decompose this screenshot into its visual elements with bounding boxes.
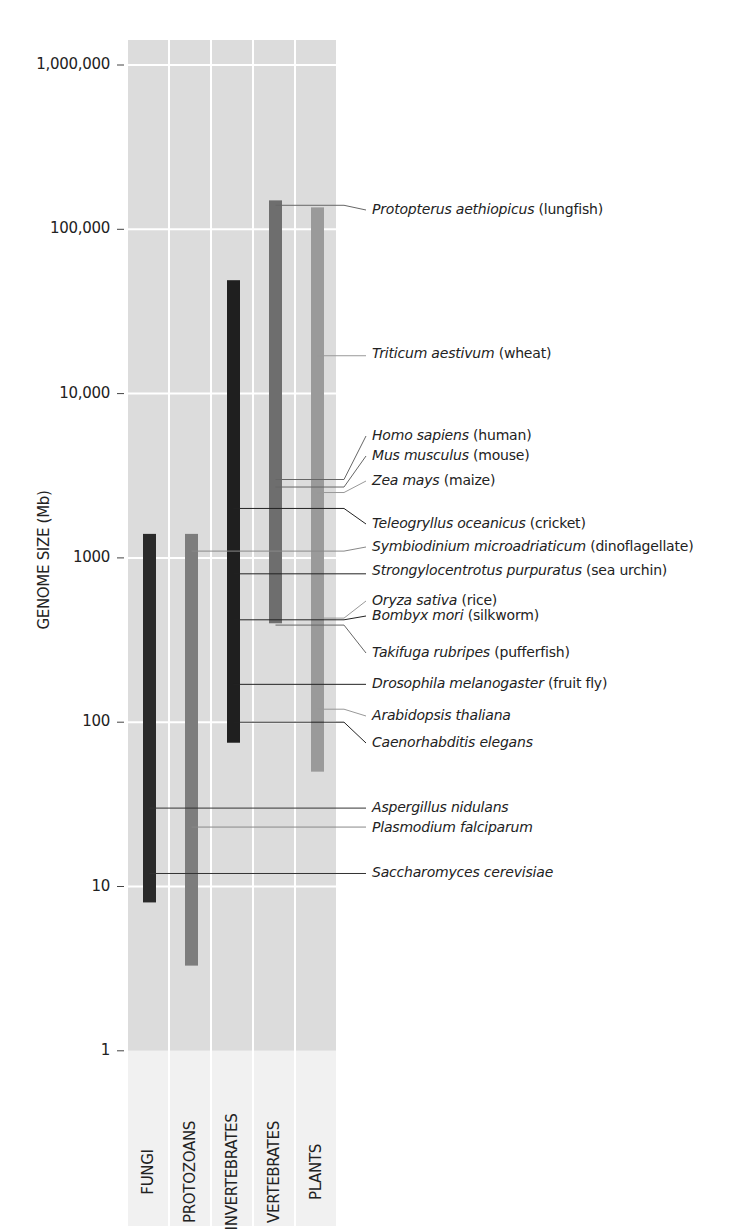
range-bar-vertebrates [269,200,282,623]
species-label: Arabidopsis thaliana [372,707,511,723]
species-label: Saccharomyces cerevisiae [372,864,553,880]
range-bar-fungi [143,534,156,903]
category-label: INVERTEBRATES [223,1114,241,1231]
genome-size-chart: GENOME SIZE (Mb) 110100100010,000100,000… [0,0,736,1232]
common-name: (mouse) [469,447,530,463]
species-name: Symbiodinium microadriaticum [372,538,586,554]
common-name: (dinoflagellate) [586,538,694,554]
species-name: Arabidopsis thaliana [372,707,511,723]
species-name: Zea mays [372,472,439,488]
species-name: Oryza sativa [372,592,457,608]
species-name: Bombyx mori [372,607,463,623]
y-tick-label: 1 [20,1041,110,1059]
species-name: Protopterus aethiopicus [372,201,534,217]
species-name: Caenorhabditis elegans [372,734,533,750]
common-name: (pufferfish) [490,644,570,660]
common-name: (cricket) [526,515,586,531]
species-label: Oryza sativa (rice) [372,592,497,608]
category-label: VERTEBRATES [265,1121,283,1223]
species-name: Mus musculus [372,447,469,463]
species-label: Mus musculus (mouse) [372,447,530,463]
common-name: (lungfish) [534,201,603,217]
y-tick-label: 1,000,000 [20,55,110,73]
species-name: Triticum aestivum [372,345,494,361]
y-tick-label: 100,000 [20,219,110,237]
species-name: Drosophila melanogaster [372,675,544,691]
species-label: Takifuga rubripes (pufferfish) [372,644,570,660]
category-label: FUNGI [139,1149,157,1194]
label-band-background [128,1051,168,1226]
species-label: Strongylocentrotus purpuratus (sea urchi… [372,562,667,578]
y-tick-label: 10,000 [20,384,110,402]
species-label: Caenorhabditis elegans [372,734,533,750]
common-name: (fruit fly) [544,675,607,691]
chart-canvas [0,0,736,1232]
species-name: Aspergillus nidulans [372,799,508,815]
species-name: Saccharomyces cerevisiae [372,864,553,880]
species-label: Symbiodinium microadriaticum (dinoflagel… [372,538,693,554]
y-tick-label: 1000 [20,548,110,566]
common-name: (sea urchin) [582,562,667,578]
y-tick-label: 100 [20,712,110,730]
species-label: Drosophila melanogaster (fruit fly) [372,675,607,691]
y-tick-label: 10 [20,877,110,895]
species-name: Strongylocentrotus purpuratus [372,562,582,578]
species-label: Plasmodium falciparum [372,819,533,835]
species-label: Homo sapiens (human) [372,427,531,443]
category-label: PLANTS [307,1144,325,1200]
species-name: Teleogryllus oceanicus [372,515,526,531]
species-label: Triticum aestivum (wheat) [372,345,551,361]
species-label: Teleogryllus oceanicus (cricket) [372,515,586,531]
species-label: Protopterus aethiopicus (lungfish) [372,201,603,217]
range-bar-protozoans [185,534,198,966]
range-bar-invertebrates [227,280,240,743]
range-bar-plants [311,207,324,771]
category-label: PROTOZOANS [181,1121,199,1223]
species-label: Bombyx mori (silkworm) [372,607,539,623]
common-name: (wheat) [494,345,551,361]
common-name: (silkworm) [463,607,539,623]
common-name: (human) [469,427,532,443]
common-name: (maize) [439,472,495,488]
species-name: Plasmodium falciparum [372,819,533,835]
species-label: Zea mays (maize) [372,472,495,488]
species-label: Aspergillus nidulans [372,799,508,815]
common-name: (rice) [457,592,497,608]
species-name: Takifuga rubripes [372,644,490,660]
species-name: Homo sapiens [372,427,469,443]
